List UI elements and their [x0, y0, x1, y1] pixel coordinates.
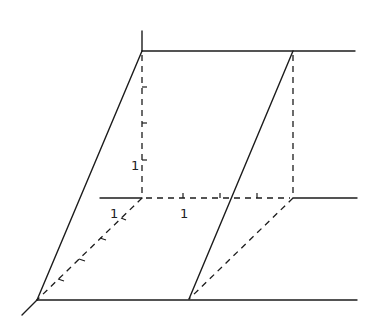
right-depth-dashed — [189, 198, 293, 299]
depth-axis-extension — [22, 300, 37, 315]
left-depth-dashed — [37, 198, 142, 300]
horizontal-unit-label: 1 — [180, 206, 188, 221]
depth-tick-4 — [58, 279, 64, 281]
right-slant-edge — [189, 51, 293, 299]
vertical-unit-label: 1 — [131, 158, 139, 173]
left-slant-edge — [37, 51, 142, 300]
depth-tick-2 — [100, 238, 106, 240]
depth-unit-label: 1 — [110, 206, 118, 221]
parallelepiped-diagram: 1 1 1 — [0, 0, 385, 326]
depth-tick-1 — [121, 218, 126, 220]
depth-tick-3 — [79, 259, 85, 261]
